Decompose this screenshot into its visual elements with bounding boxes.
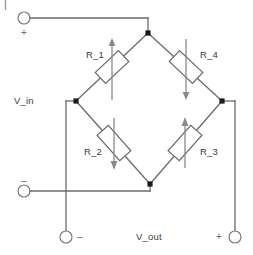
v-in-minus-sign: – [21,176,27,186]
junction-dot-right [219,98,224,103]
resistor-r2-arrow-head-down [111,161,118,170]
circuit-schematic-svg [0,0,253,255]
v-in-plus-sign: + [21,28,27,38]
resistor-r3-arrow-head-up [182,117,189,126]
resistor-r2[interactable] [97,118,131,170]
v-out-minus-sign: – [77,232,83,242]
resistor-r4-arrow-head-down [183,92,190,100]
resistor-r3-label: R_3 [200,147,218,157]
resistor-r4[interactable] [169,39,203,100]
resistor-r3[interactable] [168,117,202,168]
resistor-r1-label: R_1 [86,50,104,60]
v-in-label: V_in [14,96,34,106]
v-in-plus-terminal-circle[interactable] [18,12,30,24]
junction-dot-top [145,30,150,35]
wheatstone-bridge-figure: + – V_in R_1 R_4 R_2 R_3 – V_out + [0,0,253,255]
junction-dot-bottom [147,181,152,186]
resistor-r2-label: R_2 [84,147,102,157]
v-out-minus-terminal-circle[interactable] [60,231,72,243]
v-in-minus-terminal-circle[interactable] [18,185,30,197]
v-out-plus-sign: + [216,232,222,242]
resistor-r1-arrow-head-up [109,38,116,46]
v-out-label: V_out [136,232,162,242]
v-out-plus-terminal-circle[interactable] [229,231,241,243]
resistor-r4-label: R_4 [200,50,218,60]
resistor-r1[interactable] [95,38,129,100]
junction-dot-left [73,98,78,103]
